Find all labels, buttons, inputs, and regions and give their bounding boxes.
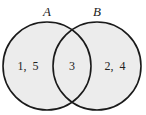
set-a-only-elements: 1, 5 [18, 59, 39, 73]
intersection-elements: 3 [69, 59, 75, 73]
set-b-label: B [93, 4, 101, 19]
set-b-only-elements: 2, 4 [105, 59, 126, 73]
venn-diagram: A B 1, 5 3 2, 4 [0, 0, 146, 115]
set-a-label: A [42, 4, 51, 19]
